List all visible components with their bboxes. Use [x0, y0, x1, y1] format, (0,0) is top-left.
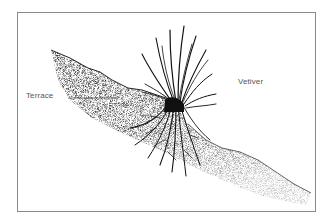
vetiver-label: Vetiver — [238, 77, 263, 86]
terrace-label: Terrace — [26, 91, 53, 100]
soil-slope — [51, 50, 311, 205]
vetiver-terrace-illustration — [0, 0, 334, 224]
